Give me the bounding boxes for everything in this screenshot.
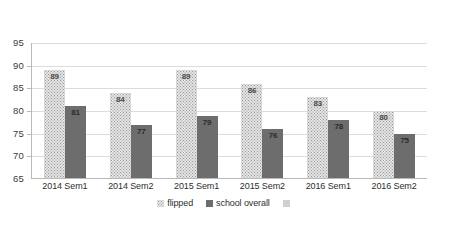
x-tick-label: 2016 Sem1	[295, 181, 361, 191]
y-tick-mark	[27, 156, 31, 157]
x-tick-label: 2015 Sem2	[229, 181, 295, 191]
bar-value-label: 75	[394, 137, 415, 145]
legend-label: school overall	[216, 198, 270, 208]
bar-group: 8378	[295, 43, 361, 179]
chart-legend: flippedschool overall	[0, 198, 450, 208]
bar-value-label: 79	[197, 119, 218, 127]
legend-item[interactable]: flipped	[157, 198, 193, 208]
legend-item[interactable]	[283, 200, 293, 207]
y-axis: 65707580859095	[0, 0, 28, 226]
bar-school-overall: 81	[65, 106, 86, 179]
bar-value-label: 89	[176, 73, 197, 81]
y-tick-label: 90	[13, 61, 24, 71]
bar-value-label: 81	[65, 109, 86, 117]
bar-school-overall: 79	[197, 116, 218, 179]
bar-school-overall: 78	[328, 120, 349, 179]
y-tick-label: 65	[13, 174, 24, 184]
x-axis-line	[32, 178, 427, 179]
bar-flipped: 84	[110, 93, 131, 179]
legend-label: flipped	[167, 198, 193, 208]
bar-chart: 65707580859095 898184778979867683788075 …	[0, 0, 450, 226]
bar-flipped: 80	[373, 111, 394, 179]
bar-group: 8981	[32, 43, 98, 179]
bar-value-label: 78	[328, 123, 349, 131]
bar-group: 8979	[164, 43, 230, 179]
bar-school-overall: 75	[394, 134, 415, 179]
x-axis: 2014 Sem12014 Sem22015 Sem12015 Sem22016…	[32, 181, 427, 191]
bar-flipped: 83	[307, 97, 328, 179]
legend-item[interactable]: school overall	[206, 198, 270, 208]
bar-groups: 898184778979867683788075	[32, 43, 427, 179]
y-tick-label: 85	[13, 84, 24, 94]
y-tick-label: 80	[13, 106, 24, 116]
bar-group: 8477	[98, 43, 164, 179]
bar-flipped: 89	[44, 70, 65, 179]
y-tick-mark	[27, 88, 31, 89]
y-tick-mark	[27, 66, 31, 67]
y-tick-label: 95	[13, 38, 24, 48]
y-tick-label: 70	[13, 152, 24, 162]
x-tick-label: 2014 Sem1	[32, 181, 98, 191]
x-tick-label: 2015 Sem1	[164, 181, 230, 191]
bar-group: 8676	[229, 43, 295, 179]
plot-area: 898184778979867683788075	[32, 43, 427, 179]
y-tick-label: 75	[13, 129, 24, 139]
bar-value-label: 84	[110, 96, 131, 104]
y-tick-mark	[27, 134, 31, 135]
legend-swatch-icon	[157, 200, 164, 207]
bar-value-label: 89	[44, 73, 65, 81]
x-tick-label: 2016 Sem2	[361, 181, 427, 191]
legend-swatch-icon	[206, 200, 213, 207]
y-tick-mark	[27, 111, 31, 112]
x-tick-label: 2014 Sem2	[98, 181, 164, 191]
bar-value-label: 77	[131, 128, 152, 136]
bar-school-overall: 77	[131, 125, 152, 179]
bar-flipped: 89	[176, 70, 197, 179]
bar-value-label: 83	[307, 100, 328, 108]
bar-flipped: 86	[241, 84, 262, 179]
bar-group: 8075	[361, 43, 427, 179]
bar-value-label: 86	[241, 87, 262, 95]
legend-swatch-icon	[283, 200, 290, 207]
bar-value-label: 80	[373, 114, 394, 122]
bar-school-overall: 76	[262, 129, 283, 179]
bar-value-label: 76	[262, 132, 283, 140]
